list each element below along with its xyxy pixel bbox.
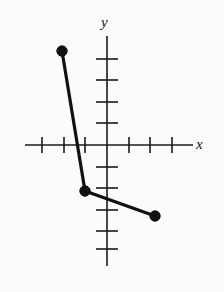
piecewise-line-path <box>62 51 155 216</box>
x-axis-label: x <box>196 137 203 152</box>
data-point-vertex <box>80 186 90 196</box>
coordinate-plane-figure: y x <box>0 0 224 292</box>
data-point-left-endpoint <box>57 46 67 56</box>
data-point-right-endpoint <box>150 211 160 221</box>
data-series-group <box>57 46 160 221</box>
y-axis-label: y <box>101 15 108 30</box>
graph-canvas <box>0 0 224 292</box>
